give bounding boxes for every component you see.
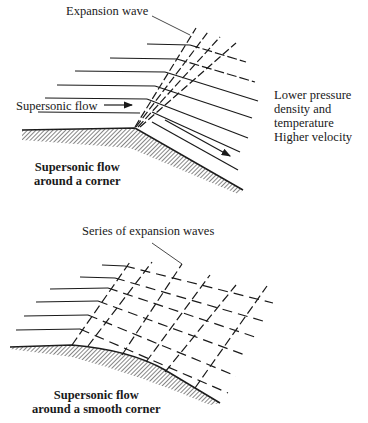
diagram-canvas — [0, 0, 368, 423]
bottom-figure — [10, 243, 273, 405]
label-supersonic-flow: Supersonic flow — [16, 99, 98, 113]
label-downstream-conditions: Lower pressure density and temperature H… — [274, 88, 352, 144]
label-expansion-wave: Expansion wave — [66, 4, 148, 18]
title-smooth-corner: Supersonic flow around a smooth corner — [32, 388, 161, 416]
title-sharp-corner: Supersonic flow around a corner — [34, 160, 121, 188]
label-series-of-waves: Series of expansion waves — [82, 224, 214, 238]
